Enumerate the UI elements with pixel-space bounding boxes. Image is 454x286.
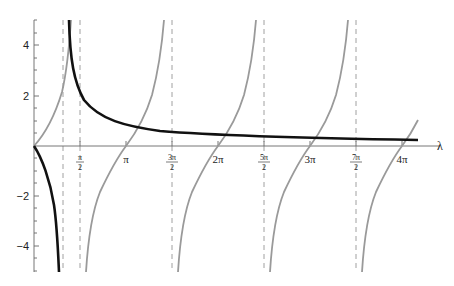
x-tick-7pi-half-num: 7π <box>352 153 360 162</box>
x-tick-pi-half-num: π <box>78 153 82 162</box>
x-tick-5pi-half-num: 5π <box>260 153 268 162</box>
chart: 4 2 −2 −4 π 2 π 3π 2 2π 5π 2 3π 7π 2 4π … <box>0 0 454 286</box>
x-tick-labels: π 2 π 3π 2 2π 5π 2 3π 7π 2 4π <box>76 153 408 172</box>
x-tick-3pi: 3π <box>304 153 316 165</box>
axes <box>34 20 440 272</box>
x-tick-pi: π <box>123 153 129 165</box>
y-tick-neg2: −2 <box>16 190 29 202</box>
x-tick-5pi-half-den: 2 <box>262 163 266 172</box>
x-tick-4pi: 4π <box>396 153 408 165</box>
x-tick-7pi-half-den: 2 <box>354 163 358 172</box>
x-axis-label: λ <box>437 139 443 153</box>
y-tick-4: 4 <box>23 39 29 51</box>
x-tick-3pi-half-num: 3π <box>168 153 176 162</box>
x-tick-3pi-half-den: 2 <box>170 163 174 172</box>
y-tick-labels: 4 2 −2 −4 <box>16 39 29 252</box>
x-tick-2pi: 2π <box>212 153 224 165</box>
x-tick-pi-half-den: 2 <box>78 163 82 172</box>
y-tick-2: 2 <box>23 90 29 102</box>
y-tick-neg4: −4 <box>16 240 29 252</box>
